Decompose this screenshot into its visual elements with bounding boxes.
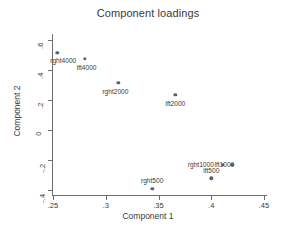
y-tick-mark (48, 40, 52, 41)
y-tick-mark (48, 100, 52, 101)
data-point-label: rght2000 (102, 88, 128, 95)
component-loadings-chart: Component loadings .25.3.35.4.45 .6.4.20… (0, 0, 296, 232)
y-tick-label: .4 (36, 73, 45, 79)
chart-title: Component loadings (0, 7, 296, 19)
x-tick-mark (211, 196, 212, 200)
x-tick-label: .45 (259, 201, 269, 210)
data-point-label: lft4000 (77, 64, 97, 71)
x-axis-label: Component 1 (0, 211, 296, 221)
y-tick-mark (48, 130, 52, 131)
y-tick-mark (48, 190, 52, 191)
x-tick-mark (53, 196, 54, 200)
y-tick-label: 0 (34, 132, 43, 136)
y-tick-mark (48, 160, 52, 161)
x-tick-label: .35 (153, 201, 163, 210)
x-tick-label: .25 (48, 201, 58, 210)
data-point-label: rght4000 (50, 57, 76, 64)
x-tick-mark (264, 196, 265, 200)
data-point-label: rght500 (141, 177, 163, 184)
y-tick-mark (48, 70, 52, 71)
x-tick-mark (106, 196, 107, 200)
y-tick-label: .2 (36, 103, 45, 109)
x-tick-label: .3 (103, 201, 109, 210)
x-tick-mark (159, 196, 160, 200)
data-point-label: lft2000 (165, 100, 185, 107)
data-point-label: lft500 (203, 167, 219, 174)
y-tick-label: .6 (36, 43, 45, 49)
y-tick-label: -.2 (38, 164, 47, 173)
x-tick-label: .4 (208, 201, 214, 210)
y-axis-label: Component 2 (12, 66, 22, 156)
y-tick-label: -.4 (38, 194, 47, 203)
